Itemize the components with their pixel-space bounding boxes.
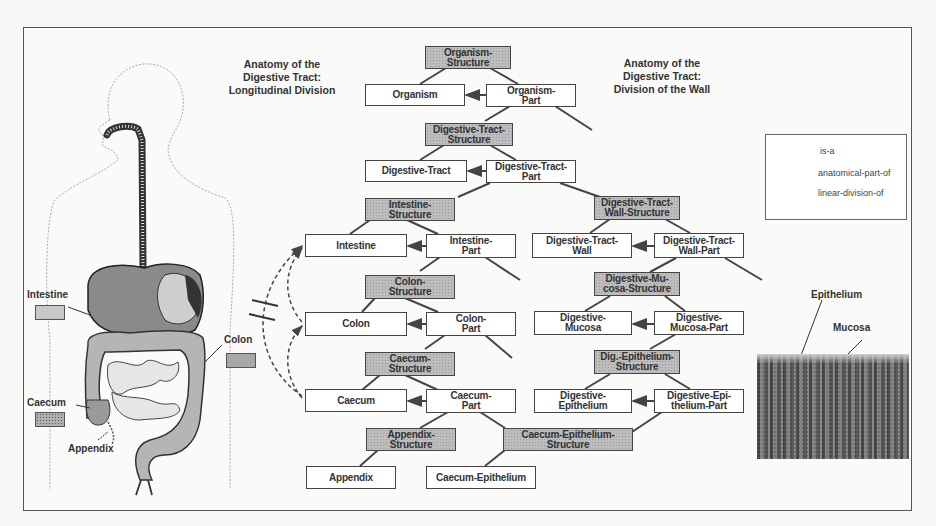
appendix-icon — [108, 422, 114, 444]
node-digestive-tract: Digestive-Tract — [365, 160, 467, 182]
node-digestive-tract-wall: Digestive-Tract- Wall — [532, 233, 632, 258]
node-caecum-part: Caecum- Part — [426, 389, 516, 413]
node-appendix: Appendix — [306, 466, 396, 489]
node-intestine-structure: Intestine- Structure — [365, 198, 455, 221]
legend-linear-division-of: linear-division-of — [818, 188, 884, 198]
node-digestive-tract-structure: Digestive-Tract- Structure — [425, 123, 513, 146]
label-intestine: Intestine — [27, 289, 68, 300]
label-colon: Colon — [224, 334, 252, 345]
node-caecum-structure: Caecum- Structure — [365, 352, 455, 376]
node-appendix-structure: Appendix- Structure — [366, 428, 456, 451]
node-digestive-epithelium-structure: Dig.-Epithelium- Structure — [594, 350, 680, 374]
label-caecum: Caecum — [27, 397, 66, 408]
legend-anatomical-part-of: anatomical-part-of — [818, 168, 891, 178]
node-intestine-part: Intestine- Part — [426, 234, 516, 258]
legend-box: is-a anatomical-part-of linear-division-… — [765, 134, 907, 220]
node-digestive-tract-part: Digestive-Tract- Part — [486, 160, 576, 183]
node-organism: Organism — [365, 84, 465, 106]
caecum-icon — [86, 400, 109, 425]
mucosa-micrograph-image — [757, 354, 909, 459]
label-appendix: Appendix — [68, 443, 114, 454]
title-longitudinal-division: Anatomy of the Digestive Tract: Longitud… — [214, 58, 350, 97]
node-digestive-mucosa-part: Digestive- Mucosa-Part — [654, 311, 744, 335]
node-organism-structure: Organism- Structure — [425, 46, 511, 69]
node-caecum-epithelium-structure: Caecum-Epithelium- Structure — [503, 428, 633, 451]
title-division-of-wall: Anatomy of the Digestive Tract: Division… — [598, 57, 726, 96]
node-digestive-mucosa-structure: Digestive-Mu- cosa-Structure — [594, 272, 680, 296]
node-digestive-tract-wall-part: Digestive-Tract- Wall-Part — [654, 233, 744, 258]
node-digestive-mucosa: Digestive- Mucosa — [534, 311, 632, 335]
label-epithelium: Epithelium — [811, 289, 862, 300]
swatch-intestine — [35, 305, 65, 320]
node-organism-part: Organism- Part — [486, 84, 576, 107]
node-caecum: Caecum — [305, 389, 407, 412]
swatch-caecum — [35, 412, 65, 427]
node-digestive-epithelium: Digestive- Epithelium — [534, 389, 632, 413]
esophagus-icon — [107, 126, 143, 268]
legend-is-a: is-a — [820, 146, 835, 156]
node-digestive-tract-wall-structure: Digestive-Tract- Wall-Structure — [594, 196, 680, 220]
node-caecum-epithelium: Caecum-Epithelium — [426, 466, 536, 489]
node-colon: Colon — [305, 312, 407, 336]
node-intestine: Intestine — [305, 234, 407, 257]
node-colon-part: Colon- Part — [426, 312, 516, 336]
swatch-colon — [226, 353, 256, 368]
node-colon-structure: Colon- Structure — [365, 275, 455, 299]
label-mucosa: Mucosa — [833, 322, 870, 333]
node-digestive-epithelium-part: Digestive-Epi- thelium-Part — [654, 389, 744, 413]
